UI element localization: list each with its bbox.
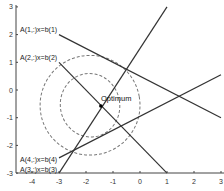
x-tick-label: -4 [29,178,35,185]
y-tick-label: 1 [9,59,13,66]
x-tick-label: 1 [165,178,169,185]
x-tick-label: 2 [192,178,196,185]
y-tick-label: 0 [9,87,13,94]
label-constraint-1: A(1,:)x=b(1) [20,26,57,34]
x-tick-label: -2 [83,178,89,185]
constraint-line-1 [59,35,221,118]
annotations: A(1,:)x=b(1) A(2,:)x=b(2) A(4,:)x=b(4) A… [20,26,131,174]
x-tick-label: -3 [56,178,62,185]
constraint-line-3 [59,7,167,173]
label-constraint-2: A(2,:)x=b(2) [20,54,57,62]
x-tick-label: 3 [219,178,223,185]
label-constraint-4: A(4,:)x=b(4) [20,156,57,164]
chart: -4-3-2-10123-3-2-10123 A(1,:)x=b(1) A(2,… [0,0,224,191]
y-tick-label: 2 [9,31,13,38]
x-tick-label: -1 [110,178,116,185]
y-tick-label: 3 [9,3,13,10]
constraint-line-2 [59,62,167,173]
y-tick-label: -2 [7,142,13,149]
y-tick-label: -1 [7,114,13,121]
inner-contour [55,69,125,142]
outer-contour [32,47,148,163]
optimum-marker [99,104,103,108]
optimum-label: Optimum [101,94,131,103]
x-tick-label: 0 [138,178,142,185]
label-constraint-3: A(3,:)x=b(3) [20,166,57,174]
y-tick-label: -3 [7,170,13,177]
plot-area [32,7,221,173]
